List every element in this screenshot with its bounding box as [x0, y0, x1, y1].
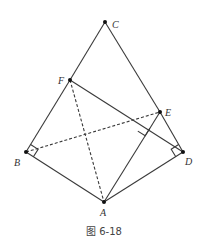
point-F	[68, 78, 72, 82]
label-C: C	[112, 19, 119, 30]
segment-AE	[104, 112, 160, 202]
label-D: D	[184, 156, 193, 167]
segment-CE	[105, 22, 160, 112]
label-B: B	[14, 157, 20, 168]
segment-FB	[26, 80, 70, 152]
point-B	[24, 150, 28, 154]
point-E	[158, 110, 162, 114]
geometry-figure: C F E B D A 图 6-18	[0, 0, 203, 245]
figure-caption: 图 6-18	[86, 226, 122, 237]
point-A	[102, 200, 106, 204]
label-A: A	[99, 207, 107, 218]
segment-ED	[160, 112, 183, 152]
label-F: F	[57, 75, 65, 86]
label-E: E	[164, 107, 171, 118]
point-D	[181, 150, 185, 154]
segment-CF	[70, 22, 105, 80]
point-C	[103, 20, 107, 24]
segment-AD	[104, 152, 183, 202]
